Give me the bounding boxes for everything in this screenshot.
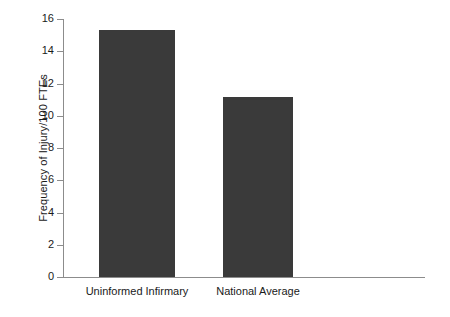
bar — [99, 30, 175, 277]
y-axis-line — [63, 19, 64, 278]
y-axis-tick-label: 6 — [14, 174, 54, 185]
x-axis-category-label: National Average — [168, 285, 348, 298]
y-axis-tick-label: 2 — [14, 239, 54, 250]
y-axis-tick — [57, 245, 63, 246]
y-axis-tick-label: 14 — [14, 45, 54, 56]
y-axis-tick — [57, 116, 63, 117]
y-axis-tick — [57, 213, 63, 214]
bar — [223, 97, 293, 277]
y-axis-tick — [57, 51, 63, 52]
y-axis-tick-label: 10 — [14, 110, 54, 121]
y-axis-tick-label: 12 — [14, 78, 54, 89]
y-axis-tick — [57, 19, 63, 20]
y-axis-tick-label: 4 — [14, 207, 54, 218]
y-axis-tick — [57, 148, 63, 149]
y-axis-tick-label: 16 — [14, 13, 54, 24]
y-axis-tick — [57, 180, 63, 181]
bar-chart: Frequency of Injury/100 FTEs 16141210864… — [0, 0, 450, 317]
y-axis-tick-label: 0 — [14, 271, 54, 282]
y-axis-tick — [57, 277, 63, 278]
y-axis-tick-label: 8 — [14, 142, 54, 153]
x-axis-line — [63, 277, 425, 278]
y-axis-tick — [57, 84, 63, 85]
